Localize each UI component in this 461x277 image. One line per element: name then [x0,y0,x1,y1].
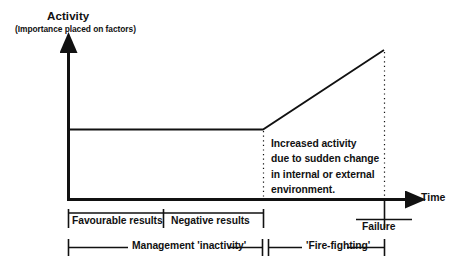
activity-over-time-diagram [0,0,461,277]
management-inactivity-label: Management 'inactivity' [132,240,246,252]
negative-results-label: Negative results [171,215,250,227]
failure-label: Failure [362,221,395,233]
fire-fighting-label: 'Fire-fighting' [306,240,370,252]
annotation-line-1: Increased activity [271,136,379,151]
annotation-line-4: environment. [271,182,379,197]
activity-curve [68,50,384,130]
annotation-line-2: due to sudden change [271,151,379,166]
x-axis-title: Time [421,192,445,204]
diagram-canvas: Activity (Importance placed on factors) … [0,0,461,277]
increased-activity-annotation: Increased activity due to sudden change … [271,136,379,198]
y-axis-title: Activity [47,10,89,23]
y-axis-subtitle: (Importance placed on factors) [15,25,136,34]
favourable-results-label: Favourable results [72,215,163,227]
annotation-line-3: in internal or external [271,167,379,182]
